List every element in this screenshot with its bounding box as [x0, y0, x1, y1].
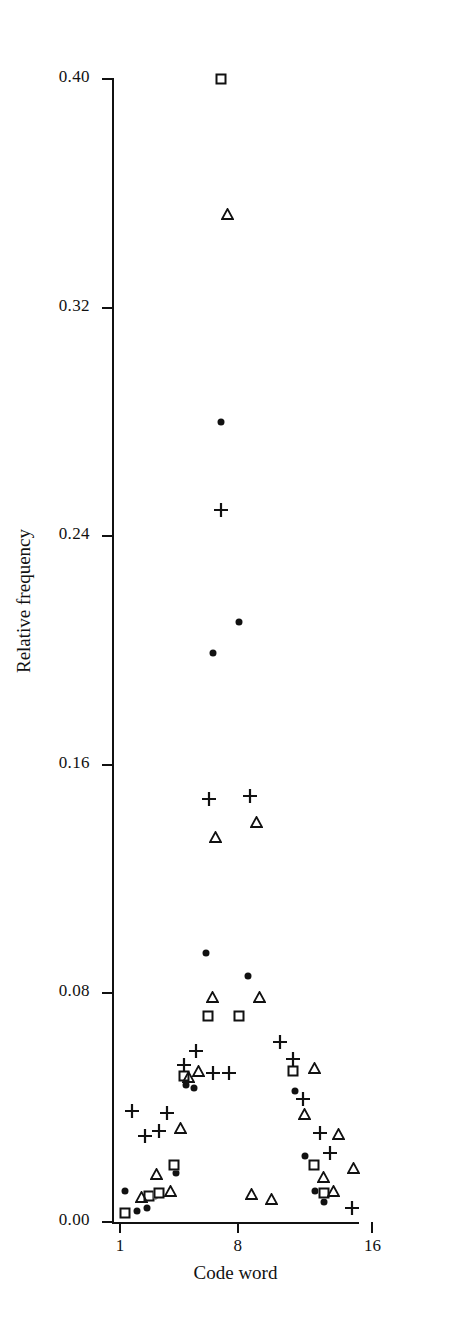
- y-axis-tick: 0.08: [102, 992, 114, 994]
- x-axis-tick-label: 8: [234, 1236, 243, 1256]
- data-point-circle: [191, 1084, 198, 1091]
- data-point-plus: [345, 1200, 360, 1215]
- data-point-square: [308, 1159, 319, 1170]
- data-point-plus: [296, 1092, 311, 1107]
- data-point-plus: [205, 1066, 220, 1081]
- data-point-square: [234, 1011, 245, 1022]
- data-point-plus: [286, 1052, 301, 1067]
- data-point-square: [168, 1159, 179, 1170]
- plot-area: 0.000.080.160.240.320.40 1816: [112, 79, 359, 1224]
- data-point-circle: [236, 618, 243, 625]
- data-point-circle: [320, 1198, 327, 1205]
- data-point-plus: [242, 789, 257, 804]
- data-point-plus: [313, 1126, 328, 1141]
- data-point-circle: [172, 1170, 179, 1177]
- data-point-square: [215, 74, 226, 85]
- data-point-circle: [202, 950, 209, 957]
- data-point-square: [153, 1188, 164, 1199]
- data-point-square: [288, 1065, 299, 1076]
- data-point-plus: [202, 792, 217, 807]
- scatter-plot-figure: 0.000.080.160.240.320.40 1816 Code word …: [0, 0, 471, 1342]
- y-axis-tick: 0.00: [102, 1221, 114, 1223]
- data-point-plus: [151, 1123, 166, 1138]
- y-axis-line: [112, 79, 114, 1224]
- data-point-circle: [133, 1207, 140, 1214]
- y-axis-tick: 0.32: [102, 307, 114, 309]
- data-point-circle: [143, 1204, 150, 1211]
- y-axis-tick-label: 0.40: [59, 67, 90, 87]
- data-point-plus: [160, 1106, 175, 1121]
- x-axis-tick: [119, 1222, 121, 1233]
- y-axis-tick: 0.16: [102, 764, 114, 766]
- data-point-circle: [209, 650, 216, 657]
- data-point-circle: [217, 418, 224, 425]
- y-axis-tick-label: 0.08: [59, 981, 90, 1001]
- y-axis-tick-label: 0.32: [59, 296, 90, 316]
- y-axis-tick-label: 0.00: [59, 1210, 90, 1230]
- x-axis-tick-label: 16: [364, 1236, 381, 1256]
- data-point-plus: [188, 1043, 203, 1058]
- x-axis-title: Code word: [112, 1262, 359, 1284]
- data-point-plus: [124, 1103, 139, 1118]
- data-point-square: [202, 1011, 213, 1022]
- x-axis-line: [112, 1222, 359, 1224]
- y-axis-tick: 0.40: [102, 78, 114, 80]
- x-axis-tick: [237, 1222, 239, 1233]
- data-point-plus: [213, 503, 228, 518]
- data-point-circle: [244, 973, 251, 980]
- data-point-plus: [176, 1057, 191, 1072]
- data-point-plus: [272, 1034, 287, 1049]
- y-axis-tick: 0.24: [102, 535, 114, 537]
- x-axis-tick-label: 1: [116, 1236, 125, 1256]
- y-axis-tick-label: 0.16: [59, 753, 90, 773]
- y-axis-tick-label: 0.24: [59, 524, 90, 544]
- data-point-plus: [323, 1146, 338, 1161]
- data-point-square: [120, 1208, 131, 1219]
- x-axis-tick: [371, 1222, 373, 1233]
- data-point-plus: [222, 1066, 237, 1081]
- y-axis-title: Relative frequency: [13, 481, 35, 721]
- data-point-circle: [122, 1187, 129, 1194]
